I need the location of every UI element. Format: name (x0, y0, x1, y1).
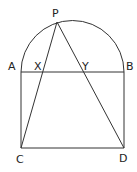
segment-pc (21, 22, 57, 148)
label-b: B (126, 60, 134, 73)
label-a: A (8, 60, 16, 73)
label-p: P (52, 7, 59, 20)
label-y: Y (81, 60, 89, 73)
label-c: C (16, 153, 24, 166)
geometry-diagram: P A X Y B C D (0, 0, 137, 172)
label-d: D (119, 152, 127, 165)
label-x: X (34, 60, 42, 73)
